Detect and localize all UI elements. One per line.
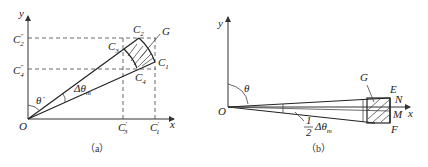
origin-b: O — [218, 105, 226, 117]
origin-a: O — [19, 120, 27, 132]
f-label: F — [390, 123, 398, 135]
c3p-label: C′3 — [118, 120, 128, 136]
panel-a: y x O θ̇ Δθm C2 C3 C1 C4 G C″2 C″4 C′3 C… — [13, 7, 175, 154]
x-label-a: x — [169, 118, 175, 130]
g-label-a: G — [162, 25, 170, 37]
svg-text:2: 2 — [306, 126, 312, 138]
c1-label: C1 — [158, 56, 169, 71]
svg-text:1: 1 — [306, 114, 312, 126]
c2-label: C2 — [133, 23, 144, 38]
m-label: M — [392, 108, 403, 120]
svg-text:Δθm: Δθm — [314, 120, 332, 135]
theta-label-b: θ — [244, 82, 250, 94]
panel-b: y x O θ G E N M F 1 2 Δθm （b） — [217, 17, 413, 154]
delta-theta-arc-a — [63, 94, 65, 102]
y-label-b: y — [217, 17, 223, 29]
arc-inner-a — [124, 49, 137, 68]
c1p-label: C′1 — [150, 120, 159, 136]
c2pp-label: C″2 — [13, 32, 24, 48]
caption-b: （b） — [306, 143, 331, 154]
g-label-b: G — [360, 71, 368, 83]
ray-upper-a — [28, 38, 139, 119]
figure: y x O θ̇ Δθm C2 C3 C1 C4 G C″2 C″4 C′3 C… — [0, 0, 428, 167]
c4pp-label: C″4 — [13, 63, 24, 79]
caption-a: （a） — [85, 143, 109, 154]
y-label-a: y — [18, 7, 24, 19]
ray-mid-b — [228, 107, 390, 111]
half-theta-pointer — [295, 112, 304, 121]
ray-lower-b — [228, 107, 375, 123]
n-label: N — [394, 93, 403, 105]
ray-upper-b — [228, 98, 390, 107]
c3-label: C3 — [108, 40, 119, 55]
theta-label-a: θ̇ — [36, 94, 45, 106]
c4-label: C4 — [135, 71, 146, 86]
x-label-b: x — [407, 107, 413, 119]
